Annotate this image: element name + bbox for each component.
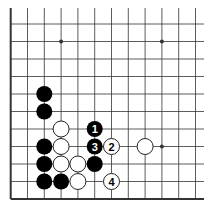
white-stone-icon	[70, 174, 86, 190]
black-stone-icon	[87, 156, 103, 172]
move-number: 2	[108, 141, 114, 153]
black-stone-icon	[36, 139, 52, 155]
white-stone-icon	[53, 121, 69, 137]
black-stone	[36, 174, 52, 190]
black-stone-icon	[53, 174, 69, 190]
black-stone-icon	[36, 156, 52, 172]
black-stone	[36, 104, 52, 120]
black-stone-icon	[36, 104, 52, 120]
black-stone-1: 1	[87, 121, 103, 137]
white-stone-icon	[53, 156, 69, 172]
white-stone-4: 4	[104, 174, 120, 190]
black-stone	[87, 156, 103, 172]
white-stone-icon	[53, 139, 69, 155]
white-stone	[53, 156, 69, 172]
black-stone-icon	[36, 86, 52, 102]
black-stone-3: 3	[87, 139, 103, 155]
star-point-icon	[59, 40, 63, 44]
white-stone-icon	[70, 156, 86, 172]
move-number: 3	[92, 141, 98, 153]
white-stone	[53, 139, 69, 155]
star-point-icon	[160, 40, 164, 44]
star-point-icon	[160, 145, 164, 149]
white-stone	[53, 121, 69, 137]
move-number: 1	[92, 123, 98, 135]
white-stone	[70, 174, 86, 190]
black-stone	[36, 156, 52, 172]
black-stone	[36, 86, 52, 102]
move-number: 4	[108, 176, 115, 188]
white-stone	[137, 139, 153, 155]
white-stone-icon	[137, 139, 153, 155]
black-stone-icon	[36, 174, 52, 190]
white-stone-2: 2	[104, 139, 120, 155]
black-stone	[53, 174, 69, 190]
white-stone	[70, 156, 86, 172]
black-stone	[36, 139, 52, 155]
go-board: 1324	[0, 0, 214, 204]
